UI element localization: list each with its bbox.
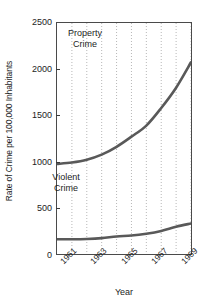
y-tick-mark bbox=[56, 69, 60, 70]
series-label-property-crime: Property Crime bbox=[56, 28, 114, 49]
y-tick-label: 500 bbox=[14, 203, 52, 213]
y-tick-label: 2500 bbox=[14, 17, 52, 27]
series-line bbox=[57, 62, 191, 164]
y-tick-mark bbox=[56, 115, 60, 116]
y-tick-label: 1500 bbox=[14, 110, 52, 120]
data-series-layer bbox=[57, 23, 191, 254]
y-tick-label: 2000 bbox=[14, 64, 52, 74]
y-tick-label: 1000 bbox=[14, 157, 52, 167]
y-axis-title-text: Rate of Crime per 100,000 Inhabitants bbox=[4, 61, 14, 201]
y-tick-mark bbox=[56, 162, 60, 163]
crime-rate-line-chart: Rate of Crime per 100,000 Inhabitants 05… bbox=[0, 0, 209, 306]
plot-area bbox=[56, 22, 192, 255]
series-label-violent-crime: Violent Crime bbox=[40, 172, 92, 193]
series-line bbox=[57, 224, 191, 240]
x-axis-title: Year bbox=[56, 287, 192, 297]
y-tick-mark bbox=[56, 208, 60, 209]
